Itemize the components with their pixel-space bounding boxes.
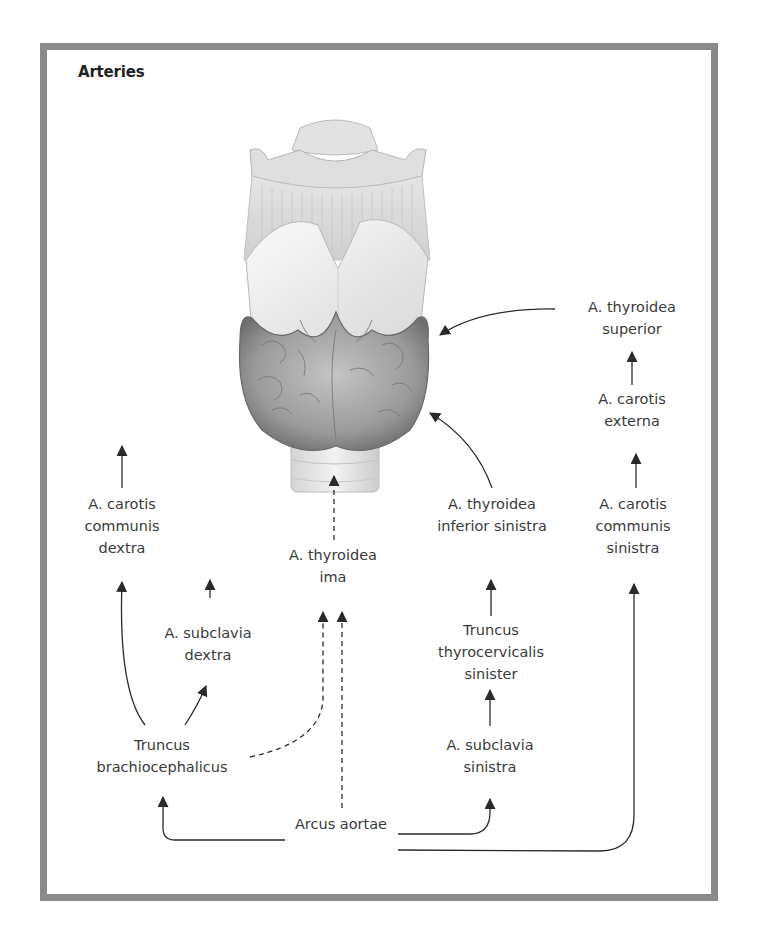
arrow-thyroidea-superior-to-gland (440, 309, 555, 335)
arrow-brachiocephalicus-to-subclavia-dextra (185, 686, 206, 725)
larynx-thyroid-illustration (239, 120, 430, 492)
arrow-thyroidea-inferior-to-gland (430, 413, 492, 488)
label-truncus-thyrocervicalis-sinister: Truncus thyrocervicalis sinister (438, 619, 544, 685)
hyoid-bone (250, 120, 426, 188)
label-thyroidea-inferior-sinistra: A. thyroidea inferior sinistra (437, 493, 547, 537)
arrow-arcus-to-brachiocephalicus (163, 797, 285, 840)
arrow-brachiocephalicus-to-ima (250, 612, 323, 757)
thyroid-gland (239, 312, 428, 450)
label-subclavia-dextra: A. subclavia dextra (164, 622, 251, 666)
label-thyroidea-ima: A. thyroidea ima (289, 544, 377, 588)
arrow-brachiocephalicus-to-carotis-dextra (121, 582, 145, 725)
label-carotis-communis-dextra: A. carotis communis dextra (84, 493, 159, 559)
label-carotis-externa: A. carotis externa (598, 388, 666, 432)
label-thyroidea-superior: A. thyroidea superior (588, 296, 676, 340)
arrow-arcus-to-subclavia-sinistra (398, 799, 490, 834)
label-carotis-communis-sinistra: A. carotis communis sinistra (595, 493, 670, 559)
label-truncus-brachiocephalicus: Truncus brachiocephalicus (96, 734, 227, 778)
diagram-canvas (0, 0, 759, 943)
label-subclavia-sinistra: A. subclavia sinistra (446, 734, 533, 778)
label-arcus-aortae: Arcus aortae (295, 813, 387, 835)
